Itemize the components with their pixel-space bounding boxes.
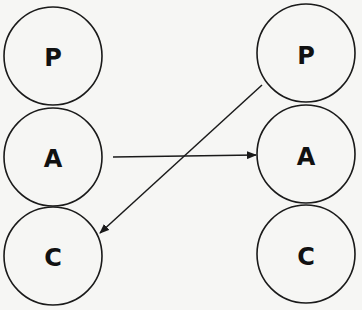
right-node-c-label: C	[297, 243, 315, 271]
right-column: P A C	[257, 4, 355, 303]
right-node-p-label: P	[297, 42, 315, 70]
left-column: P A C	[4, 7, 102, 305]
right-node-a-label: A	[297, 143, 316, 171]
left-node-c-label: C	[44, 244, 62, 272]
left-node-a: A	[4, 108, 102, 206]
arrow-right-p-to-left-c	[100, 85, 262, 233]
left-node-p: P	[4, 7, 102, 105]
left-node-a-label: A	[44, 145, 63, 173]
right-node-c: C	[257, 205, 355, 303]
right-node-a: A	[257, 105, 355, 203]
diagram-canvas: P A C P A C	[0, 0, 362, 310]
left-node-c: C	[4, 207, 102, 305]
left-node-p-label: P	[44, 44, 62, 72]
right-node-p: P	[257, 4, 355, 102]
